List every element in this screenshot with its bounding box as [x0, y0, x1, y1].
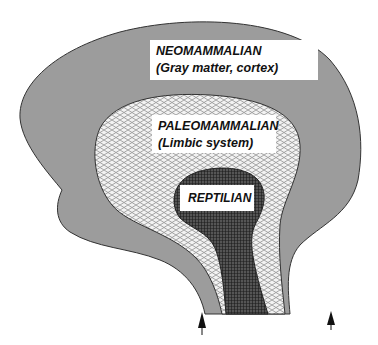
- paleomammalian-subtitle: (Limbic system): [158, 135, 276, 152]
- arrow-right-icon: [327, 311, 335, 330]
- neomammalian-title: NEOMAMMALIAN: [156, 43, 318, 60]
- triune-brain-diagram: NEOMAMMALIAN (Gray matter, cortex) PALEO…: [0, 0, 378, 345]
- neomammalian-label: NEOMAMMALIAN (Gray matter, cortex): [150, 40, 318, 80]
- paleomammalian-title: PALEOMAMMALIAN: [158, 118, 276, 135]
- neomammalian-subtitle: (Gray matter, cortex): [156, 60, 318, 77]
- reptilian-title: REPTILIAN: [188, 190, 254, 206]
- paleomammalian-label: PALEOMAMMALIAN (Limbic system): [152, 115, 276, 153]
- arrow-left-icon: [198, 312, 206, 335]
- reptilian-label: REPTILIAN: [180, 185, 254, 211]
